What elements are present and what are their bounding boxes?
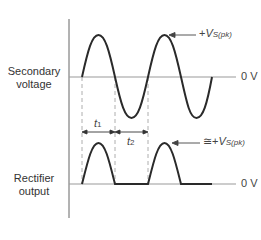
peak-symbol: V xyxy=(205,27,212,39)
t1-subscript: 1 xyxy=(97,120,101,129)
rectifier-output-label: Rectifier output xyxy=(2,172,66,198)
t2-label: t2 xyxy=(127,135,135,147)
rectifier-label-line2: output xyxy=(2,185,66,198)
approx-subscript: S(pk) xyxy=(226,138,245,147)
t2-subscript: 2 xyxy=(130,138,134,147)
secondary-label-line2: voltage xyxy=(2,78,66,91)
secondary-label-line1: Secondary xyxy=(2,65,66,78)
rectifier-label-line1: Rectifier xyxy=(2,172,66,185)
zero-v-top-label: 0 V xyxy=(241,70,258,82)
approx-prefix: ≅+ xyxy=(203,135,218,147)
approx-peak-voltage-label: ≅+VS(pk) xyxy=(203,135,245,148)
dashed-guides xyxy=(82,77,148,184)
approx-symbol: V xyxy=(218,135,225,147)
peak-voltage-label: +VS(pk) xyxy=(199,27,232,39)
peak-subscript: S(pk) xyxy=(213,30,232,39)
t1-label: t1 xyxy=(94,117,102,129)
rectifier-output-wave xyxy=(82,143,212,184)
zero-v-bottom-label: 0 V xyxy=(241,177,258,189)
secondary-voltage-label: Secondary voltage xyxy=(2,65,66,91)
